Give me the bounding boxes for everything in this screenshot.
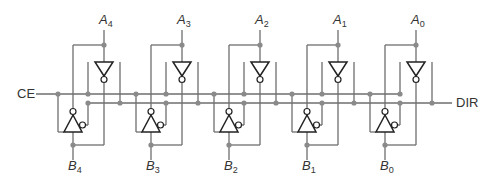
junction-dot [195, 100, 200, 105]
enable-bubble-icon [392, 122, 398, 128]
junction-dot [101, 42, 106, 47]
junction-dot [241, 91, 246, 96]
a-terminal-label: A3 [176, 12, 191, 29]
junction-dot [117, 100, 122, 105]
dir-label: DIR [456, 95, 478, 110]
a-terminal-label: A4 [98, 12, 113, 29]
b-terminal-label: B0 [380, 158, 394, 175]
inversion-bubble-icon [179, 77, 185, 83]
junction-dot [397, 91, 402, 96]
inversion-bubble-icon [226, 109, 232, 115]
junction-dot [211, 91, 216, 96]
junction-dot [85, 91, 90, 96]
a-terminal-label: A1 [332, 12, 347, 29]
inversion-bubble-icon [148, 109, 154, 115]
b-terminal-label: B4 [68, 158, 82, 175]
junction-dot [241, 100, 246, 105]
junction-dot [413, 42, 418, 47]
junction-dot [163, 91, 168, 96]
inversion-bubble-icon [382, 109, 388, 115]
junction-dot [351, 100, 356, 105]
enable-bubble-icon [80, 122, 86, 128]
junction-dot [304, 142, 309, 147]
a-to-b-tristate-buffer [251, 62, 269, 76]
a-terminal-label: A2 [254, 12, 269, 29]
junction-dot [226, 142, 231, 147]
enable-bubble-icon [158, 122, 164, 128]
a-terminal-label: A0 [410, 12, 425, 29]
junction-dot [179, 42, 184, 47]
inversion-bubble-icon [101, 77, 107, 83]
inversion-bubble-icon [70, 109, 76, 115]
a-to-b-tristate-buffer [407, 62, 425, 76]
junction-dot [382, 142, 387, 147]
junction-dot [319, 91, 324, 96]
inversion-bubble-icon [257, 77, 263, 83]
a-to-b-tristate-buffer [173, 62, 191, 76]
junction-dot [273, 100, 278, 105]
junction-dot [148, 142, 153, 147]
junction-dot [429, 100, 434, 105]
junction-dot [397, 100, 402, 105]
a-to-b-tristate-buffer [329, 62, 347, 76]
junction-dot [55, 91, 60, 96]
junction-dot [70, 142, 75, 147]
b-terminal-label: B1 [302, 158, 316, 175]
junction-dot [367, 91, 372, 96]
junction-dot [319, 100, 324, 105]
inversion-bubble-icon [335, 77, 341, 83]
ce-label: CE [17, 86, 35, 101]
junction-dot [133, 91, 138, 96]
b-terminal-label: B2 [224, 158, 238, 175]
junction-dot [85, 100, 90, 105]
a-to-b-tristate-buffer [95, 62, 113, 76]
junction-dot [335, 42, 340, 47]
junction-dot [257, 42, 262, 47]
enable-bubble-icon [314, 122, 320, 128]
junction-dot [163, 100, 168, 105]
b-terminal-label: B3 [146, 158, 160, 175]
inversion-bubble-icon [413, 77, 419, 83]
enable-bubble-icon [236, 122, 242, 128]
inversion-bubble-icon [304, 109, 310, 115]
junction-dot [289, 91, 294, 96]
circuit-diagram: CE DIR A4B4A3B3A2B2A1B1A0B0 [0, 0, 491, 180]
